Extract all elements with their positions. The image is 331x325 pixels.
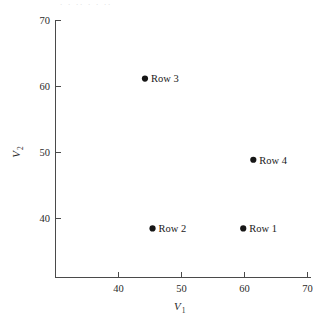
y-tick-label: 50 <box>40 147 51 158</box>
y-tick-label: 70 <box>40 15 51 26</box>
x-tick-label: 60 <box>239 283 250 294</box>
point-label: Row 1 <box>249 223 277 234</box>
y-axis-title: V2 <box>10 146 25 158</box>
y-axis-title-subscript: 2 <box>16 146 25 150</box>
x-axis-ticks: 40 50 60 70 <box>113 272 313 294</box>
point-marker <box>250 157 256 163</box>
x-tick-label: 70 <box>302 283 313 294</box>
point-marker <box>149 225 155 231</box>
data-point: Row 2 <box>149 223 186 234</box>
x-tick-label: 40 <box>113 283 124 294</box>
point-marker <box>240 225 246 231</box>
point-label: Row 4 <box>259 155 287 166</box>
point-label: Row 2 <box>159 223 187 234</box>
data-point: Row 3 <box>142 73 179 84</box>
x-axis-title: V1 <box>174 300 186 315</box>
svg-text:V1: V1 <box>174 300 186 315</box>
point-label: Row 3 <box>151 73 179 84</box>
x-tick-label: 50 <box>176 283 187 294</box>
scatter-plot: 70 60 50 40 40 50 60 70 V1 V2 Row 1Row 2… <box>0 0 331 325</box>
y-axis-ticks: 70 60 50 40 <box>40 15 62 224</box>
data-point: Row 1 <box>240 223 277 234</box>
svg-text:V2: V2 <box>10 146 25 158</box>
data-points-layer: Row 1Row 2Row 3Row 4 <box>142 73 288 234</box>
x-axis-title-subscript: 1 <box>182 306 186 315</box>
y-tick-label: 60 <box>40 81 51 92</box>
data-point: Row 4 <box>250 155 288 166</box>
point-marker <box>142 75 148 81</box>
y-tick-label: 40 <box>40 213 51 224</box>
